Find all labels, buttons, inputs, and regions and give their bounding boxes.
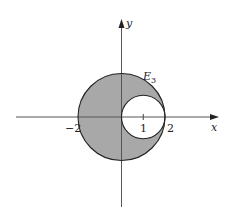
tick-label-neg2: −2 (65, 122, 81, 135)
x-axis-arrow-icon (210, 114, 219, 120)
region-label-main: E (142, 70, 151, 83)
y-axis-label: y (125, 17, 133, 30)
region-label: E3 (142, 70, 156, 85)
y-axis-arrow-icon (119, 19, 125, 28)
diagram-canvas: −2 1 2 x y E3 (0, 0, 231, 212)
tick-label-2: 2 (167, 122, 174, 135)
x-axis-label: x (211, 121, 218, 134)
region-label-subscript: 3 (151, 76, 156, 85)
tick-label-1: 1 (140, 122, 147, 135)
region-diagram: −2 1 2 x y E3 (0, 0, 231, 212)
